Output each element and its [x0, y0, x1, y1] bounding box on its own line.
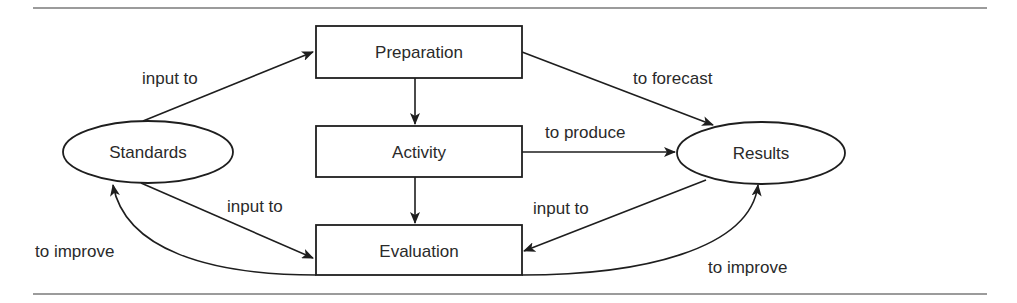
preparation-label: Preparation	[375, 43, 463, 62]
label-standards-to-evaluation: input to	[227, 197, 283, 216]
cycle-diagram: Standards Preparation Activity Evaluatio…	[0, 0, 1017, 303]
node-standards: Standards	[63, 121, 233, 183]
edge-preparation-to-results	[522, 52, 713, 125]
node-evaluation: Evaluation	[316, 225, 522, 275]
node-activity: Activity	[316, 126, 522, 177]
label-evaluation-to-standards: to improve	[35, 242, 114, 261]
node-preparation: Preparation	[316, 26, 522, 78]
label-activity-to-results: to produce	[545, 123, 625, 142]
label-results-to-evaluation: input to	[533, 199, 589, 218]
label-standards-to-preparation: input to	[142, 69, 198, 88]
edge-evaluation-to-standards	[113, 185, 316, 275]
results-label: Results	[733, 144, 790, 163]
edge-standards-to-evaluation	[141, 183, 313, 258]
node-results: Results	[677, 122, 845, 184]
label-evaluation-to-results: to improve	[708, 258, 787, 277]
activity-label: Activity	[392, 143, 446, 162]
standards-label: Standards	[109, 143, 187, 162]
evaluation-label: Evaluation	[379, 242, 458, 261]
label-preparation-to-results: to forecast	[633, 69, 713, 88]
